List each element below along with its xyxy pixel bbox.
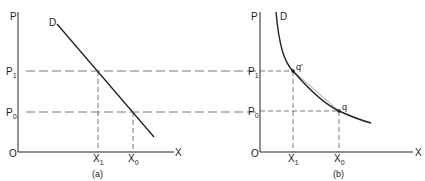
panel-b-x0-label: X0 (334, 153, 345, 166)
point-q (337, 109, 341, 113)
panel-b-origin-label: O (251, 148, 259, 159)
panel-a-p0-label: P0 (6, 107, 17, 120)
panel-b-demand-curve (276, 12, 371, 123)
point-q-prime (291, 69, 295, 73)
panel-a-demand-line (57, 24, 154, 137)
panel-b-caption: (b) (333, 169, 344, 179)
panel-a-x0-label: X0 (128, 153, 139, 166)
panel-b-p0-label: P0 (248, 106, 259, 119)
panel-b-x-axis-label: X (415, 147, 422, 158)
panel-a-p1-label: P1 (6, 66, 17, 79)
panel-b: P X O D P1 P0 X1 X0 q′ q (b) (248, 11, 422, 179)
panel-a: P X O D P1 P0 X1 X0 (a) (6, 11, 258, 179)
panel-a-x1-label: X1 (93, 153, 104, 166)
panel-b-demand-label: D (280, 11, 287, 22)
panel-a-x-axis-label: X (175, 147, 182, 158)
panel-b-p1-label: P1 (248, 66, 259, 79)
panel-a-origin-label: O (9, 148, 17, 159)
panel-b-chord-line (293, 71, 339, 111)
demand-diagram: P X O D P1 P0 X1 X0 (a) P X O D P1 P0 (0, 0, 425, 181)
panel-b-y-axis-label: P (251, 11, 258, 22)
panel-b-x1-label: X1 (288, 153, 299, 166)
panel-a-demand-label: D (49, 17, 56, 28)
point-q-label: q (342, 102, 347, 112)
panel-a-y-axis-label: P (10, 11, 17, 22)
point-q-prime-label: q′ (296, 62, 303, 72)
panel-a-caption: (a) (92, 169, 103, 179)
